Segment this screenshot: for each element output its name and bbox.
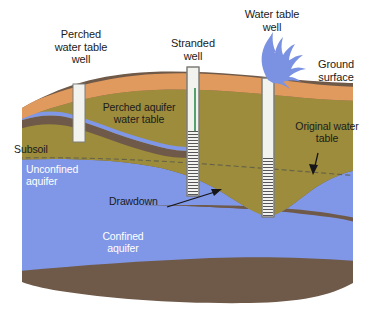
well-screen-water-table <box>263 156 273 216</box>
well-water-table-pumping[interactable] <box>262 78 274 217</box>
well-stranded[interactable] <box>187 67 199 196</box>
well-perched-water-table[interactable] <box>73 84 85 142</box>
label-drawdown: Drawdown <box>109 195 158 207</box>
label-perched-water-table-well: Perched water table well <box>38 28 124 66</box>
label-perched-aquifer-water-table: Perched aquifer water table <box>86 101 192 125</box>
well-casing-perched <box>73 84 85 142</box>
label-original-water-table: Original water table <box>282 120 372 144</box>
label-stranded-well: Stranded well <box>155 37 231 62</box>
well-screen-stranded <box>188 131 198 195</box>
groundwater-cross-section-diagram: Perched water table well Stranded well W… <box>0 0 375 325</box>
label-subsoil: Subsoil <box>14 143 48 155</box>
label-confined-aquifer: Confined aquifer <box>80 230 166 254</box>
label-water-table-well: Water table well <box>228 8 316 33</box>
label-ground-surface: Ground surface <box>305 58 367 83</box>
label-unconfined-aquifer: Unconfined aquifer <box>26 163 78 187</box>
